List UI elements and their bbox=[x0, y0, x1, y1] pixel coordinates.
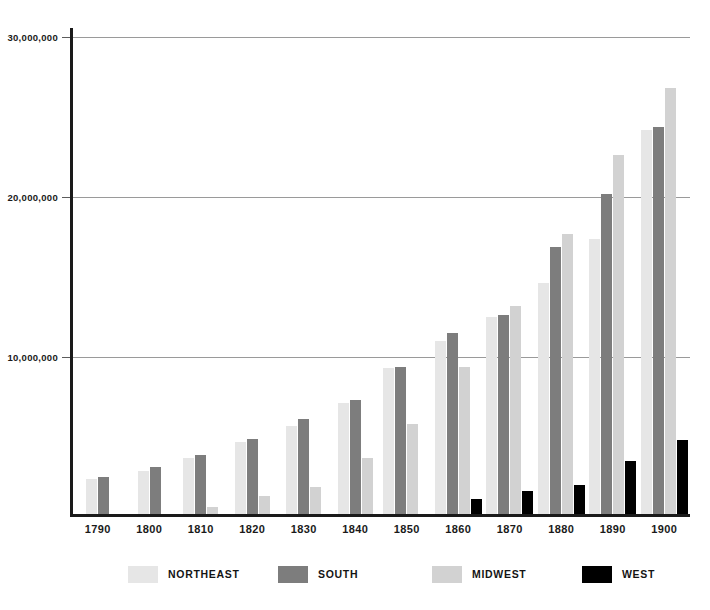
plot-area: 10,000,00020,000,00030,000,000 179018001… bbox=[0, 0, 710, 545]
x-axis-tick-label-1900: 1900 bbox=[634, 523, 694, 535]
legend-label-west: WEST bbox=[622, 568, 655, 580]
x-axis-labels: 1790180018101820183018401850186018701880… bbox=[0, 0, 710, 545]
legend-swatch-south bbox=[278, 566, 308, 583]
legend-label-midwest: MIDWEST bbox=[472, 568, 526, 580]
legend-item-northeast[interactable]: NORTHEAST bbox=[128, 563, 240, 585]
legend-swatch-northeast bbox=[128, 566, 158, 583]
legend-swatch-west bbox=[582, 566, 612, 583]
legend-item-midwest[interactable]: MIDWEST bbox=[432, 563, 526, 585]
chart-legend: NORTHEASTSOUTHMIDWESTWEST bbox=[0, 563, 710, 593]
legend-item-west[interactable]: WEST bbox=[582, 563, 655, 585]
legend-item-south[interactable]: SOUTH bbox=[278, 563, 358, 585]
population-bar-chart: 10,000,00020,000,00030,000,000 179018001… bbox=[0, 0, 710, 610]
legend-swatch-midwest bbox=[432, 566, 462, 583]
legend-label-south: SOUTH bbox=[318, 568, 358, 580]
legend-label-northeast: NORTHEAST bbox=[168, 568, 240, 580]
